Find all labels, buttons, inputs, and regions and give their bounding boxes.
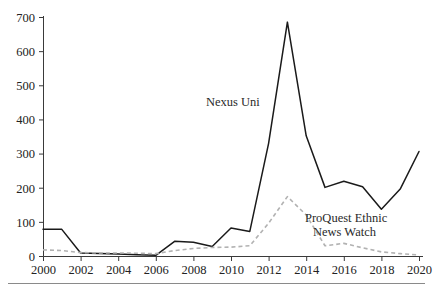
x-tick-label: 2006 <box>144 263 169 277</box>
series-annotations: Nexus UniProQuest EthnicNews Watch <box>206 95 388 239</box>
y-tick-label: 400 <box>16 113 35 127</box>
x-tick-label: 2002 <box>69 263 94 277</box>
y-tick-label: 200 <box>16 182 35 196</box>
y-tick-label: 600 <box>16 45 35 59</box>
x-tick-label: 2008 <box>181 263 206 277</box>
series-label: News Watch <box>313 225 377 239</box>
y-tick-label: 0 <box>29 250 35 264</box>
line-chart: 0100200300400500600700 20002002200420062… <box>0 0 433 290</box>
series-label: ProQuest Ethnic <box>305 211 388 225</box>
x-tick-label: 2020 <box>407 263 432 277</box>
x-tick-label: 2018 <box>369 263 394 277</box>
series-label: Nexus Uni <box>206 95 260 109</box>
x-tick-label: 2014 <box>294 263 320 277</box>
y-tick-label: 500 <box>16 79 35 93</box>
y-axis: 0100200300400500600700 <box>16 11 43 264</box>
y-tick-label: 100 <box>16 216 35 230</box>
x-tick-label: 2016 <box>332 263 357 277</box>
x-tick-label: 2004 <box>106 263 132 277</box>
x-axis: 2000200220042006200820102012201420162018… <box>31 257 432 278</box>
y-tick-label: 700 <box>16 11 35 25</box>
x-tick-label: 2010 <box>219 263 244 277</box>
chart-figure: 0100200300400500600700 20002002200420062… <box>0 0 433 290</box>
y-tick-label: 300 <box>16 147 35 161</box>
x-tick-label: 2012 <box>257 263 282 277</box>
x-tick-label: 2000 <box>31 263 56 277</box>
